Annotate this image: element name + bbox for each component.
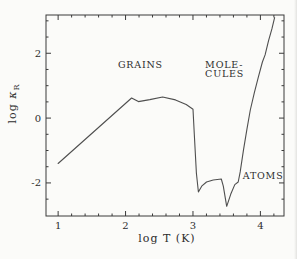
axes-frame: [46, 15, 284, 216]
y-axis-label-subscript: R: [12, 85, 21, 91]
kappa-symbol: κ: [6, 91, 19, 99]
y-tick-label: -2: [31, 177, 41, 188]
x-tick-label: 1: [55, 220, 61, 231]
x-axis-label: log T (K): [107, 232, 227, 245]
scan-page-edge: [294, 0, 297, 259]
grains-label: GRAINS: [118, 59, 163, 70]
y-tick-label: 2: [35, 48, 41, 59]
y-axis-label: log κR: [6, 57, 22, 151]
y-tick-label: 0: [35, 113, 41, 124]
atoms-label: ATOMS: [242, 170, 284, 181]
x-tick-label: 3: [190, 220, 196, 231]
opacity-vs-temperature-figure: 1234-202GRAINSMOLE-CULESATOMS log T (K) …: [0, 0, 297, 259]
molecules-label-line2: CULES: [205, 68, 244, 79]
y-axis-label-log: log: [6, 99, 19, 124]
x-tick-label: 4: [257, 220, 263, 231]
x-tick-label: 2: [122, 220, 128, 231]
plot-area: 1234-202GRAINSMOLE-CULESATOMS: [0, 0, 297, 259]
